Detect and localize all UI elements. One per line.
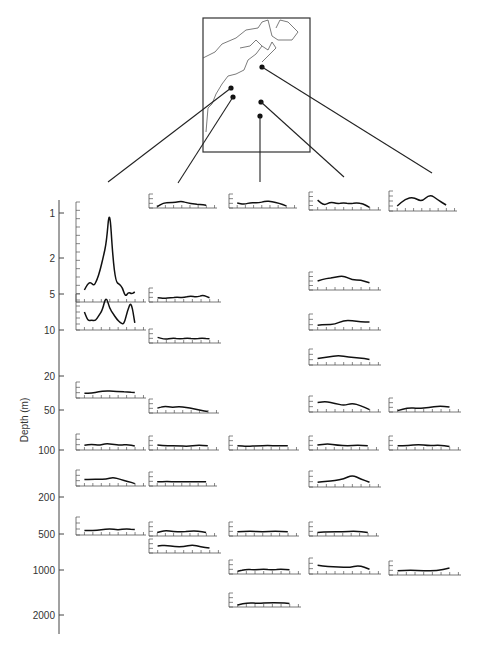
profile-panel	[389, 398, 461, 412]
profile-curve	[237, 446, 287, 447]
depth-tick-label: 10	[44, 325, 56, 336]
profile-panel	[76, 382, 146, 398]
profile-panel	[229, 593, 301, 607]
profile-panel	[309, 436, 379, 450]
profile-panel	[149, 522, 217, 536]
profile-curve	[318, 276, 370, 283]
profile-curve	[157, 445, 207, 446]
profile-panel	[149, 472, 217, 486]
profile-curve	[158, 296, 210, 299]
profile-panel	[149, 539, 221, 553]
profile-curve	[318, 200, 370, 207]
depth-tick-label: 2000	[33, 610, 56, 621]
profile-panel	[76, 470, 146, 486]
depth-tick-label: 2	[49, 253, 55, 264]
profile-curve	[84, 391, 134, 393]
profile-panel	[309, 314, 381, 330]
profile-curve	[158, 337, 210, 339]
profile-panel	[309, 522, 379, 536]
depth-tick-label: 1	[49, 208, 55, 219]
profile-panel	[309, 192, 381, 210]
profile-panels	[76, 191, 461, 607]
leader-line	[178, 97, 233, 183]
profile-panel	[149, 288, 221, 302]
profile-curve	[237, 531, 287, 532]
depth-profile-figure: 12510205010020050010002000Depth (m)	[0, 0, 480, 649]
profile-panel	[229, 436, 299, 450]
depth-axis-title: Depth (m)	[19, 398, 30, 442]
profile-panel	[389, 436, 461, 450]
station-leader-lines	[108, 67, 432, 183]
profile-panel	[309, 471, 381, 487]
depth-tick-label: 200	[38, 492, 55, 503]
depth-tick-label: 20	[44, 371, 56, 382]
profile-curve	[84, 444, 134, 446]
profile-panel	[149, 399, 219, 413]
profile-panel	[309, 349, 381, 365]
coastline	[203, 20, 298, 132]
profile-panel	[76, 434, 146, 450]
profile-panel	[149, 329, 221, 343]
profile-curve	[398, 568, 450, 571]
profile-curve	[397, 196, 446, 206]
profile-panel	[309, 396, 381, 412]
depth-tick-label: 500	[38, 529, 55, 540]
profile-curve	[398, 445, 450, 447]
profile-panel	[229, 522, 299, 536]
profile-curve	[318, 402, 370, 410]
profile-panel	[309, 558, 381, 574]
profile-panel	[229, 560, 301, 574]
depth-tick-label: 100	[38, 445, 55, 456]
profile-panel	[309, 272, 381, 290]
leader-line	[262, 67, 432, 173]
profile-curve	[238, 569, 290, 571]
profile-curve	[157, 531, 206, 533]
depth-tick-label: 50	[44, 405, 56, 416]
profile-curve	[318, 476, 370, 482]
profile-curve	[318, 356, 370, 360]
leader-line	[261, 102, 344, 177]
depth-tick-label: 5	[49, 289, 55, 300]
profile-curve	[318, 320, 370, 325]
depth-tick-label: 1000	[33, 565, 56, 576]
profile-panel	[149, 436, 219, 450]
profile-curve	[317, 444, 367, 446]
profile-curve	[84, 478, 134, 484]
profile-panel	[76, 517, 146, 535]
leader-line	[108, 88, 231, 182]
profile-panel	[389, 191, 457, 211]
profile-curve	[84, 299, 134, 324]
profile-panel	[76, 202, 146, 302]
depth-axis: 12510205010020050010002000Depth (m)	[19, 200, 64, 634]
profile-curve	[84, 217, 134, 295]
profile-curve	[318, 565, 370, 569]
profile-curve	[317, 531, 367, 532]
profile-curve	[158, 545, 210, 548]
profile-panel	[76, 294, 146, 330]
profile-panel	[149, 194, 217, 208]
profile-panel	[229, 194, 297, 208]
profile-curve	[84, 529, 134, 531]
profile-panel	[389, 561, 461, 575]
